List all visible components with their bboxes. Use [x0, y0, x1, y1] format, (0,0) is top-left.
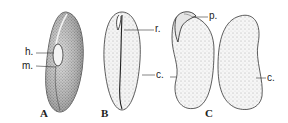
panel-a-seed — [36, 12, 83, 112]
panel-a-caption: A — [40, 108, 48, 119]
label-radicle: r. — [155, 24, 161, 34]
panel-c-caption: C — [205, 108, 213, 119]
seed-anatomy-figure: h. m. A r. c. B p. c. C — [0, 0, 288, 123]
figure-drawing — [0, 0, 288, 123]
label-cotyledon-c: c. — [267, 73, 275, 83]
panel-b-seed — [104, 12, 155, 110]
panel-c-cotyledons — [170, 12, 266, 110]
label-plumule: p. — [209, 11, 217, 21]
label-cotyledon-b: c. — [156, 70, 164, 80]
panel-b-caption: B — [101, 108, 108, 119]
label-hilum: h. — [25, 47, 33, 57]
hilum-shape — [53, 44, 63, 66]
label-micropyle: m. — [22, 61, 33, 71]
